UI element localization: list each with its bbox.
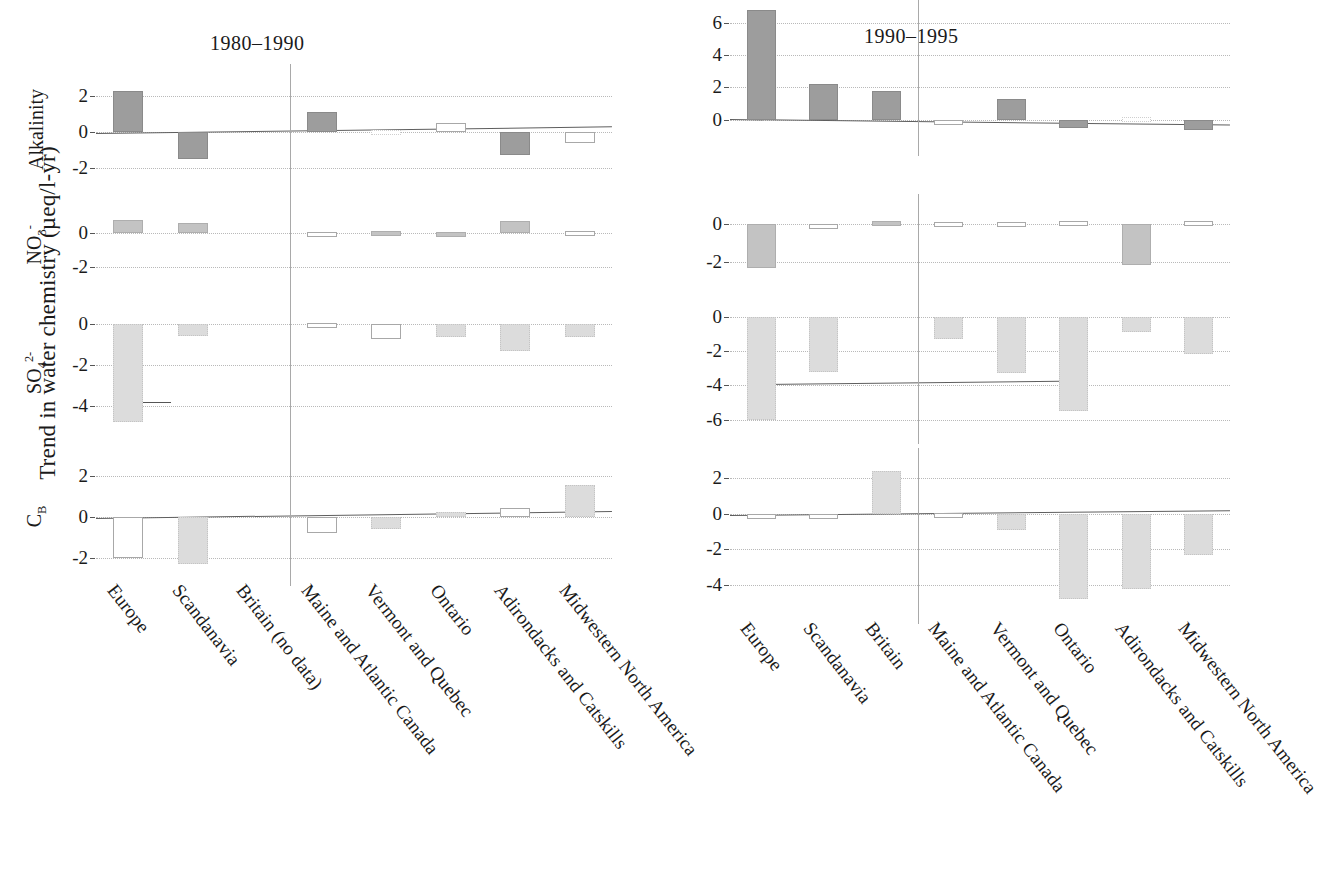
gridline	[96, 96, 612, 97]
gridline	[96, 233, 612, 234]
bar	[436, 512, 466, 517]
y-tick-mark	[724, 514, 729, 515]
bar	[436, 123, 466, 132]
bar	[997, 99, 1026, 120]
y-tick-label: -2	[52, 157, 88, 179]
subpanel-no3: 0-2	[96, 206, 612, 284]
gridline	[730, 385, 1230, 386]
gridline	[730, 224, 1230, 225]
y-tick-mark	[90, 267, 95, 268]
trend-line	[730, 510, 1230, 516]
bar	[1059, 514, 1088, 600]
x-category-label: Ontario	[425, 580, 479, 640]
gridline	[96, 365, 612, 366]
bar	[371, 130, 401, 135]
subpanel-cb: 20-2	[96, 462, 612, 572]
bar	[997, 317, 1026, 374]
y-tick-mark	[90, 233, 95, 234]
bar	[747, 317, 776, 420]
x-category-label: Ontario	[1048, 618, 1102, 678]
x-category-label: Europe	[736, 618, 787, 675]
subpanel-so42: 0-2-4	[96, 312, 612, 434]
y-tick-mark	[90, 132, 95, 133]
y-tick-label: -2	[52, 256, 88, 278]
bar	[1122, 514, 1151, 589]
y-tick-mark	[724, 351, 729, 352]
subpanel-alkalinity: 6420	[730, 4, 1230, 142]
y-tick-label: -2	[52, 546, 88, 568]
x-category-label: Vermont and Quebec	[986, 618, 1103, 759]
gridline	[96, 267, 612, 268]
bar	[565, 231, 595, 236]
subpanel-so42: 0-2-4-6	[730, 308, 1230, 430]
bar	[1059, 221, 1088, 226]
bar	[113, 324, 143, 422]
bar	[371, 231, 401, 236]
y-tick-label: 2	[686, 467, 722, 489]
y-tick-label: -6	[686, 408, 722, 430]
gridline	[730, 478, 1230, 479]
bar	[747, 224, 776, 269]
bar	[934, 317, 963, 339]
y-tick-label: 0	[686, 212, 722, 234]
gridline	[730, 87, 1230, 88]
x-category-label: Britain	[861, 618, 911, 674]
y-tick-label: -2	[686, 340, 722, 362]
region-separator	[918, 194, 919, 294]
bar	[872, 221, 901, 226]
y-tick-mark	[90, 558, 95, 559]
region-separator	[918, 294, 919, 444]
y-tick-mark	[90, 324, 95, 325]
trend-line	[758, 380, 1083, 384]
gridline	[730, 420, 1230, 421]
series-label-so42: SO42-	[22, 298, 50, 448]
gridline	[96, 476, 612, 477]
y-tick-mark	[724, 478, 729, 479]
bar	[934, 222, 963, 227]
bar	[307, 323, 337, 328]
bar	[436, 324, 466, 337]
gridline	[730, 23, 1230, 24]
y-tick-label: 0	[52, 121, 88, 143]
region-separator	[290, 298, 291, 448]
subpanel-cb: 20-2-4	[730, 462, 1230, 610]
bar	[113, 220, 143, 233]
y-tick-mark	[724, 420, 729, 421]
region-separator	[290, 448, 291, 586]
bar	[371, 324, 401, 339]
gridline	[730, 549, 1230, 550]
gridline	[730, 351, 1230, 352]
region-separator	[290, 192, 291, 298]
y-tick-mark	[724, 385, 729, 386]
panel-group-1980-1990: 1980–199020-2Alkalinity0-2NO3-0-2-4SO42-…	[0, 0, 660, 873]
y-tick-mark	[724, 549, 729, 550]
bar	[934, 120, 963, 126]
y-tick-mark	[90, 517, 95, 518]
bar	[500, 132, 530, 155]
y-tick-label: 0	[52, 222, 88, 244]
gridline	[96, 168, 612, 169]
bar	[307, 517, 337, 533]
y-tick-mark	[90, 476, 95, 477]
y-tick-label: 4	[686, 44, 722, 66]
region-separator	[918, 0, 919, 156]
bar	[809, 317, 838, 372]
y-tick-label: 2	[52, 85, 88, 107]
panel-group-1990-1995: 1990–19956420Alkalinity0-2NO3-0-2-4-6SO4…	[652, 0, 1312, 873]
y-tick-mark	[90, 365, 95, 366]
y-tick-label: 2	[52, 465, 88, 487]
y-tick-mark	[90, 406, 95, 407]
y-tick-mark	[724, 23, 729, 24]
gridline	[96, 324, 612, 325]
gridline	[730, 55, 1230, 56]
bar	[436, 232, 466, 237]
bar	[997, 514, 1026, 530]
y-tick-label: -4	[686, 374, 722, 396]
subpanel-alkalinity: 20-2	[96, 78, 612, 186]
bar	[1059, 317, 1088, 412]
gridline	[730, 585, 1230, 586]
bar	[500, 324, 530, 350]
y-tick-mark	[724, 55, 729, 56]
bar	[809, 84, 838, 119]
